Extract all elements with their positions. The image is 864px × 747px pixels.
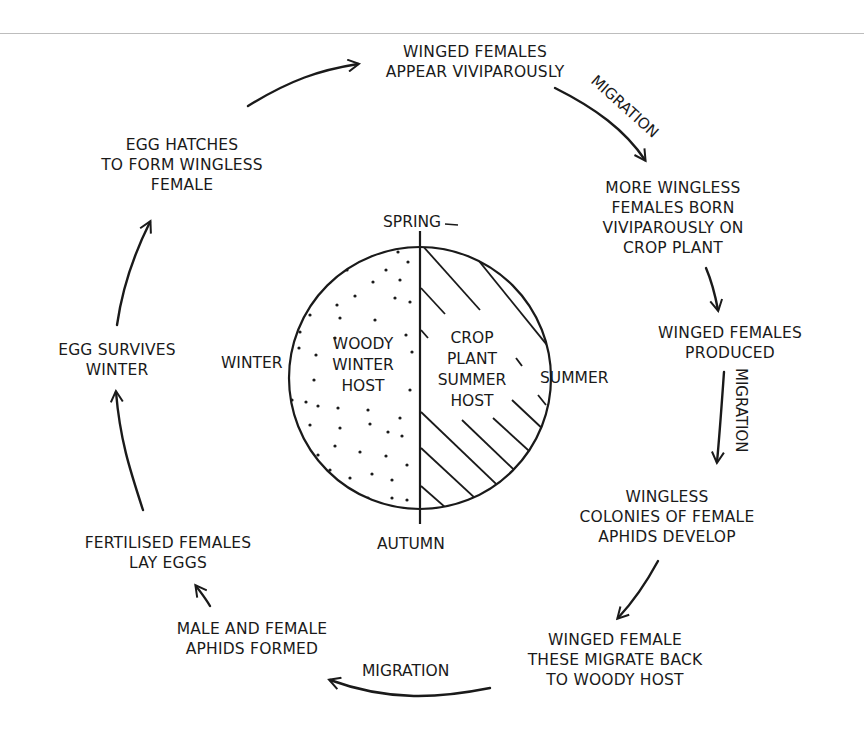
- migration-label-bottom: MIGRATION: [362, 662, 449, 680]
- center-disc: [289, 224, 555, 524]
- stage-line: LAY EGGS: [85, 553, 252, 573]
- stage-line: FEMALES BORN: [602, 198, 743, 218]
- stage-more-wingless-females: MORE WINGLESS FEMALES BORN VIVIPAROUSLY …: [602, 178, 743, 258]
- label-line: HOST: [332, 376, 394, 397]
- arrow-male-to-fertilised: [196, 586, 210, 606]
- stage-line: APHIDS DEVELOP: [580, 527, 755, 547]
- stage-line: WINGLESS: [580, 487, 755, 507]
- stage-winged-females-appear: WINGED FEMALES APPEAR VIVIPAROUSLY: [386, 42, 565, 82]
- label-line: CROP: [438, 328, 507, 349]
- arrow-colonies-to-winged-female: [618, 561, 658, 618]
- label-line: WINTER: [332, 355, 394, 376]
- stage-egg-hatches: EGG HATCHES TO FORM WINGLESS FEMALE: [101, 135, 263, 195]
- arrow-crop-to-winged-produced: [706, 268, 718, 310]
- stage-line: WINGED FEMALE: [528, 630, 703, 650]
- stage-line: EGG HATCHES: [101, 135, 263, 155]
- stage-line: CROP PLANT: [602, 238, 743, 258]
- aphid-life-cycle-diagram: MIGRATION MIGRATION WOODY WINTER HOST CR…: [0, 0, 864, 747]
- stage-male-female-formed: MALE AND FEMALE APHIDS FORMED: [177, 619, 328, 659]
- stage-line: PRODUCED: [658, 343, 802, 363]
- season-summer: SUMMER: [540, 369, 609, 387]
- stage-line: THESE MIGRATE BACK: [528, 650, 703, 670]
- crop-plant-summer-host-label: CROP PLANT SUMMER HOST: [438, 328, 507, 412]
- stage-line: COLONIES OF FEMALE: [580, 507, 755, 527]
- arrow-migration-3: [330, 680, 490, 696]
- stage-line: TO WOODY HOST: [528, 670, 703, 690]
- stage-line: WINGED FEMALES: [658, 323, 802, 343]
- stage-line: VIVIPAROUSLY ON: [602, 218, 743, 238]
- label-line: WOODY: [332, 334, 394, 355]
- stage-egg-survives-winter: EGG SURVIVES WINTER: [58, 340, 176, 380]
- stage-line: WINGED FEMALES: [386, 42, 565, 62]
- stage-line: APHIDS FORMED: [177, 639, 328, 659]
- stage-line: WINTER: [58, 360, 176, 380]
- migration-label-top-right: MIGRATION: [587, 72, 662, 142]
- season-autumn: AUTUMN: [377, 535, 445, 553]
- label-line: PLANT: [438, 349, 507, 370]
- stage-winged-females-produced: WINGED FEMALES PRODUCED: [658, 323, 802, 363]
- stage-line: TO FORM WINGLESS: [101, 155, 263, 175]
- stage-line: MORE WINGLESS: [602, 178, 743, 198]
- season-winter: WINTER: [221, 354, 283, 372]
- label-line: HOST: [438, 391, 507, 412]
- stage-line: FERTILISED FEMALES: [85, 533, 252, 553]
- season-spring: SPRING: [383, 213, 441, 231]
- woody-winter-host-label: WOODY WINTER HOST: [332, 334, 394, 397]
- migration-label-right: MIGRATION: [732, 368, 750, 453]
- arrow-migration-2: [717, 372, 724, 462]
- arrow-hatch-to-winged: [248, 64, 358, 106]
- stage-line: MALE AND FEMALE: [177, 619, 328, 639]
- stage-line: EGG SURVIVES: [58, 340, 176, 360]
- arrow-fertilised-to-egg: [116, 392, 143, 510]
- stage-winged-female-migrate-back: WINGED FEMALE THESE MIGRATE BACK TO WOOD…: [528, 630, 703, 690]
- stage-wingless-colonies: WINGLESS COLONIES OF FEMALE APHIDS DEVEL…: [580, 487, 755, 547]
- arrow-egg-survive-to-hatch: [117, 222, 150, 325]
- stage-fertilised-lay-eggs: FERTILISED FEMALES LAY EGGS: [85, 533, 252, 573]
- label-line: SUMMER: [438, 370, 507, 391]
- stage-line: APPEAR VIVIPAROUSLY: [386, 62, 565, 82]
- stage-line: FEMALE: [101, 175, 263, 195]
